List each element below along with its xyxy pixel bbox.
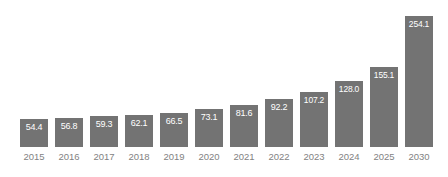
bar[interactable]: 155.1: [370, 67, 398, 147]
category-label: 2020: [192, 151, 226, 163]
bar-value-label: 81.6: [230, 108, 258, 119]
category-label: 2023: [297, 151, 331, 163]
bar[interactable]: 54.4: [20, 119, 48, 147]
bar-value-label: 107.2: [297, 95, 331, 106]
bar[interactable]: 66.5: [160, 113, 188, 147]
bar[interactable]: 62.1: [125, 115, 153, 147]
category-label: 2018: [122, 151, 156, 163]
category-label: 2015: [17, 151, 51, 163]
bar-value-label: 62.1: [125, 118, 153, 129]
category-label: 2030: [402, 151, 436, 163]
bar-value-label: 66.5: [160, 116, 188, 127]
bar-value-label: 254.1: [402, 19, 436, 30]
bar[interactable]: 81.6: [230, 105, 258, 147]
bar[interactable]: 92.2: [265, 99, 293, 147]
category-label: 2022: [262, 151, 296, 163]
category-label: 2024: [332, 151, 366, 163]
category-label: 2016: [52, 151, 86, 163]
bar[interactable]: 56.8: [55, 118, 83, 147]
category-label: 2019: [157, 151, 191, 163]
bar-value-label: 155.1: [367, 70, 401, 81]
bar-value-label: 128.0: [332, 84, 366, 95]
bar-chart: 54.4 2015 56.8 2016 59.3 2017 62.1 2018 …: [0, 0, 448, 177]
plot-area: 54.4 2015 56.8 2016 59.3 2017 62.1 2018 …: [0, 0, 448, 177]
bar[interactable]: 107.2: [300, 92, 328, 147]
bar[interactable]: 128.0: [335, 81, 363, 147]
category-label: 2025: [367, 151, 401, 163]
bar-value-label: 54.4: [20, 122, 48, 133]
bar-value-label: 73.1: [195, 112, 223, 123]
category-label: 2021: [227, 151, 261, 163]
bar[interactable]: 59.3: [90, 116, 118, 147]
bar-value-label: 92.2: [265, 102, 293, 113]
bar[interactable]: 254.1: [405, 16, 433, 147]
category-label: 2017: [87, 151, 121, 163]
bar[interactable]: 73.1: [195, 109, 223, 147]
bar-value-label: 56.8: [55, 121, 83, 132]
bar-value-label: 59.3: [90, 119, 118, 130]
